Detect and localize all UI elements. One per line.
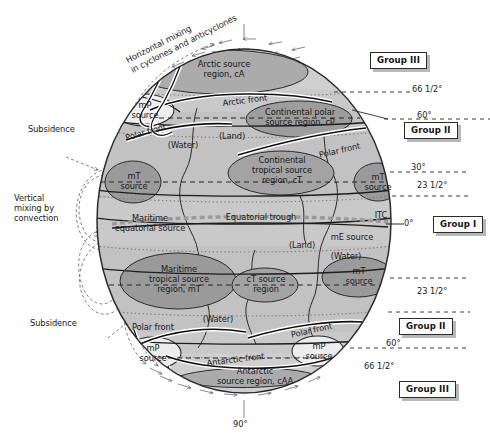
lat-label-90s: 90°: [233, 419, 248, 429]
label-land-north: (Land): [211, 131, 253, 141]
lat-label-23s: 23 1/2°: [417, 286, 447, 296]
label-continental-tropical: Continental tropical source region, cT: [234, 155, 330, 186]
vertical-mixing-label: Vertical mixing by convection: [14, 193, 58, 224]
lat-label-66s: 66 1/2°: [364, 361, 394, 371]
lat-label-60n: 60°: [417, 110, 432, 120]
label-water-se: (Water): [323, 251, 369, 261]
group-box-2-south[interactable]: Group II: [399, 318, 453, 335]
label-mp-source-nw: mP source: [124, 100, 166, 120]
lat-label-66n: 66 1/2°: [412, 84, 442, 94]
label-ct-source: cT source region: [238, 274, 294, 294]
label-continental-polar: Continental polar source region, cP: [248, 107, 352, 127]
label-antarctic-source: Antarctic source region, cAA: [196, 366, 314, 386]
label-land-south: (Land): [281, 240, 323, 250]
label-maritime-tropical-sw: Maritime tropical source region, mT: [133, 264, 225, 295]
group-box-2-north[interactable]: Group II: [404, 122, 458, 139]
label-arctic-source: Arctic source region, cA: [182, 59, 266, 79]
label-water-sw: (Water): [195, 314, 241, 324]
group-box-1[interactable]: Group I: [433, 216, 483, 233]
label-mp-source-sw: mP source: [133, 343, 173, 363]
subsidence-bottom-label: Subsidence: [30, 318, 77, 328]
label-water-nw: (Water): [160, 140, 206, 150]
label-mt-source-se: mT source: [340, 266, 378, 286]
label-me-source: mE source: [321, 232, 383, 242]
label-mt-source-nw: mT source: [114, 171, 154, 191]
lat-label-0: 0°: [404, 218, 413, 228]
lat-label-60s: 60°: [386, 338, 401, 348]
group-box-3-south[interactable]: Group III: [399, 381, 456, 398]
lat-label-30n: 30°: [411, 162, 426, 172]
label-mt-source-ne: mT source: [359, 172, 397, 192]
subsidence-top-label: Subsidence: [28, 124, 75, 134]
label-maritime-equatorial: Maritime equatorial source: [105, 213, 195, 233]
label-mp-source-se: mP source: [299, 341, 339, 361]
label-equatorial-trough: Equatorial trough: [214, 212, 308, 222]
lat-label-23n: 23 1/2°: [417, 180, 447, 190]
label-polar-front-sw: Polar front: [132, 322, 174, 332]
label-itc: ITC: [370, 210, 392, 220]
diagram-canvas: Horizontal mixing in cyclones and anticy…: [0, 0, 490, 434]
group-box-3-north[interactable]: Group III: [370, 52, 427, 69]
